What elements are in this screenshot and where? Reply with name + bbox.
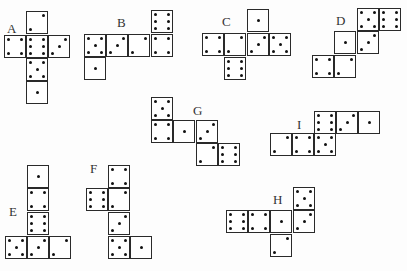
pip-icon (221, 153, 224, 156)
pip-icon (8, 253, 11, 256)
pip-icon (382, 11, 385, 14)
pip-icon (251, 227, 254, 230)
pip-icon (272, 36, 275, 39)
pip-icon (118, 222, 121, 225)
pip-icon (229, 220, 232, 223)
pip-icon (42, 75, 45, 78)
pip-icon (167, 100, 170, 103)
pip-icon (37, 246, 40, 249)
pip-icon (7, 52, 10, 55)
die-face-1 (84, 57, 106, 80)
pip-icon (111, 205, 114, 208)
die-face-1 (130, 236, 152, 259)
pip-icon (346, 121, 349, 124)
die-face-6 (314, 111, 336, 134)
pip-icon (140, 246, 143, 249)
pip-icon (154, 51, 157, 54)
pip-icon (227, 74, 230, 77)
pip-icon (30, 229, 33, 232)
pip-icon (30, 253, 33, 256)
pip-icon (212, 146, 215, 149)
pip-icon (167, 114, 170, 117)
die-face-3 (293, 210, 315, 233)
pip-icon (154, 13, 157, 16)
pip-icon (122, 37, 125, 40)
pip-icon (360, 48, 363, 51)
pip-icon (42, 45, 45, 48)
pip-icon (395, 18, 398, 21)
die-face-3 (196, 120, 218, 143)
die-face-6 (151, 10, 173, 33)
die-face-2 (196, 143, 218, 166)
pip-icon (124, 182, 127, 185)
pip-icon (102, 198, 105, 201)
pip-icon (161, 107, 164, 110)
pip-icon (279, 43, 282, 46)
pip-icon (352, 114, 355, 117)
pip-icon (212, 123, 215, 126)
die-face-4 (151, 120, 173, 143)
pip-icon (42, 52, 45, 55)
pip-icon (295, 136, 298, 139)
pip-icon (65, 239, 68, 242)
pip-icon (42, 14, 45, 17)
die-face-2 (270, 133, 292, 156)
pip-icon (167, 37, 170, 40)
net-label-i: I (297, 118, 301, 131)
pip-icon (309, 190, 312, 193)
pip-icon (87, 51, 90, 54)
pip-icon (272, 50, 275, 53)
pip-icon (131, 51, 134, 54)
die-face-4 (4, 35, 26, 58)
pip-icon (242, 227, 245, 230)
die-face-5 (151, 97, 173, 120)
pip-icon (111, 229, 114, 232)
pip-icon (36, 91, 39, 94)
pip-icon (221, 160, 224, 163)
die-face-6 (27, 212, 49, 235)
pip-icon (257, 43, 260, 46)
die-face-1 (334, 31, 356, 54)
die-face-3 (48, 35, 70, 58)
pip-icon (167, 27, 170, 30)
pip-icon (154, 123, 157, 126)
pip-icon (285, 36, 288, 39)
pip-icon (382, 18, 385, 21)
pip-icon (382, 25, 385, 28)
die-face-6 (26, 35, 48, 58)
pip-icon (234, 146, 237, 149)
pip-icon (167, 20, 170, 23)
pip-icon (111, 182, 114, 185)
pip-icon (8, 239, 11, 242)
pip-icon (315, 58, 318, 61)
pip-icon (227, 50, 230, 53)
pip-icon (144, 37, 147, 40)
pip-icon (20, 52, 23, 55)
pip-icon (309, 213, 312, 216)
pip-icon (309, 204, 312, 207)
die-face-3 (247, 33, 269, 56)
pip-icon (29, 45, 32, 48)
pip-icon (167, 137, 170, 140)
pip-icon (102, 205, 105, 208)
pip-icon (234, 153, 237, 156)
pip-icon (303, 220, 306, 223)
pip-icon (154, 137, 157, 140)
pip-icon (308, 150, 311, 153)
die-face-4 (108, 165, 130, 188)
pip-icon (36, 68, 39, 71)
pip-icon (30, 205, 33, 208)
die-face-1 (358, 111, 380, 134)
pip-icon (263, 36, 266, 39)
pip-icon (42, 38, 45, 41)
net-label-b: B (117, 16, 126, 29)
die-face-6 (86, 188, 108, 211)
pip-icon (330, 150, 333, 153)
pip-icon (308, 136, 311, 139)
pip-icon (52, 253, 55, 256)
pip-icon (296, 190, 299, 193)
pip-icon (64, 38, 67, 41)
pip-icon (124, 253, 127, 256)
die-face-4 (151, 34, 173, 57)
pip-icon (154, 114, 157, 117)
